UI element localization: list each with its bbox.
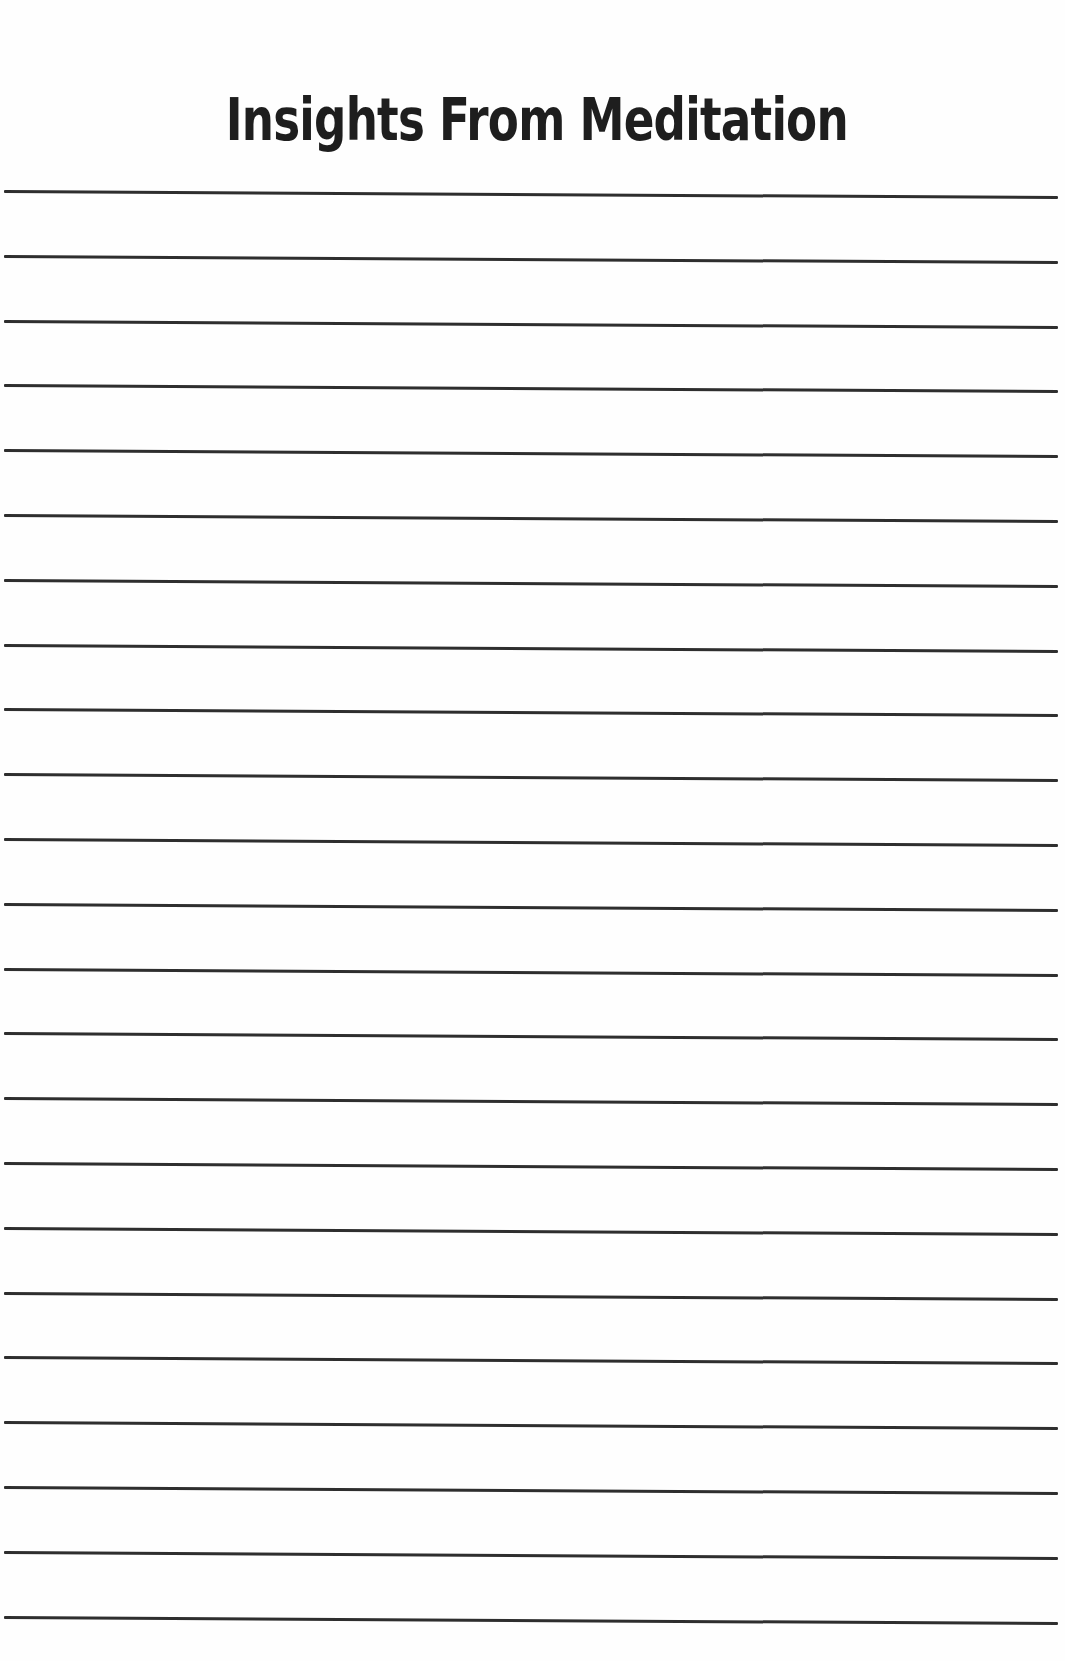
ruled-line	[4, 1421, 1058, 1430]
ruled-line	[4, 320, 1058, 329]
ruled-line	[4, 384, 1058, 393]
ruled-line	[4, 773, 1058, 782]
ruled-line	[4, 903, 1058, 912]
ruled-line	[4, 1551, 1058, 1560]
ruled-line	[4, 644, 1058, 653]
ruled-line	[4, 514, 1058, 523]
ruled-line	[4, 708, 1058, 717]
ruled-line	[4, 1292, 1058, 1301]
ruled-line	[4, 1162, 1058, 1171]
ruled-line	[4, 190, 1058, 199]
ruled-line	[4, 1227, 1058, 1236]
ruled-line	[4, 1616, 1058, 1625]
ruled-line	[4, 968, 1058, 977]
ruled-line	[4, 1032, 1058, 1041]
ruled-lines	[0, 0, 1065, 1661]
journal-page: Insights From Meditation	[0, 0, 1065, 1661]
ruled-line	[4, 255, 1058, 264]
ruled-line	[4, 838, 1058, 847]
ruled-line	[4, 1356, 1058, 1365]
ruled-line	[4, 1486, 1058, 1495]
ruled-line	[4, 1097, 1058, 1106]
ruled-line	[4, 579, 1058, 588]
ruled-line	[4, 449, 1058, 458]
